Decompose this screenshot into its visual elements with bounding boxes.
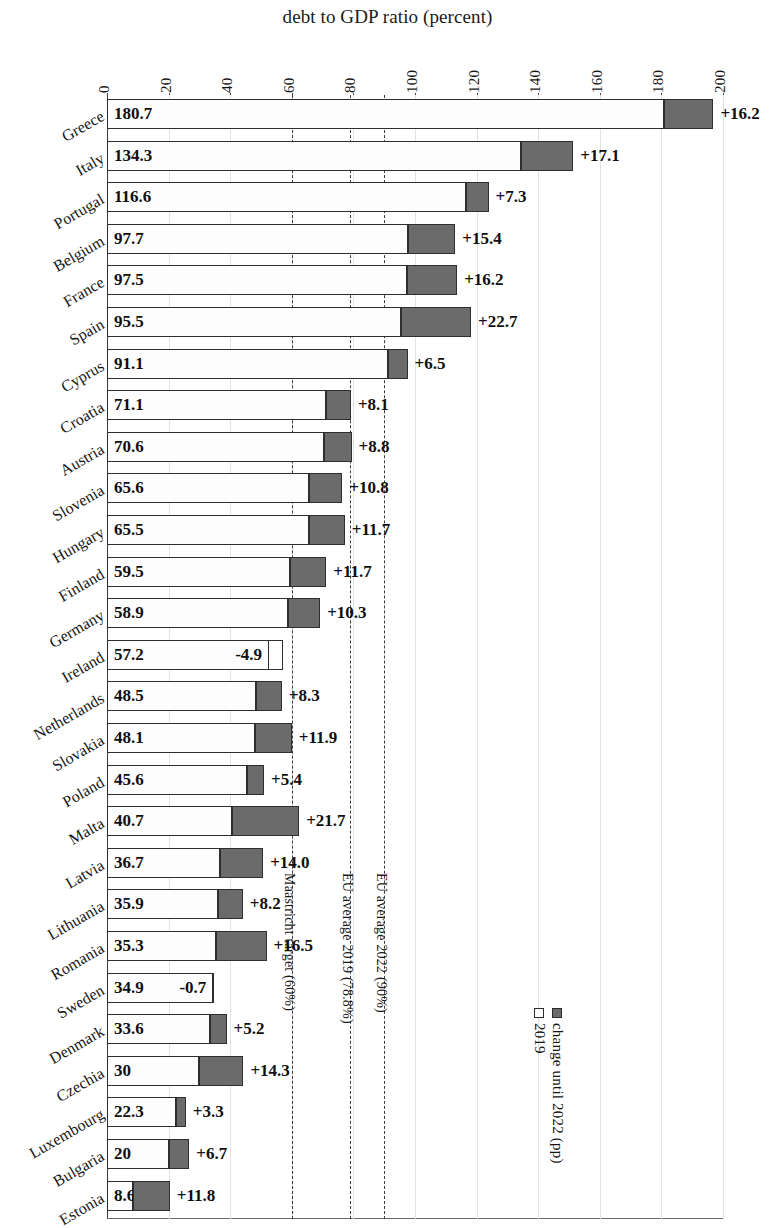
bar-row: 8.6+11.8 [107, 1181, 723, 1211]
change-value-label: +5.2 [234, 1014, 265, 1044]
bar-value-label: 35.9 [114, 889, 144, 919]
change-value-label: +5.4 [271, 765, 302, 795]
change-value-label: +21.7 [306, 806, 345, 836]
bar-segment-change [133, 1181, 169, 1211]
bar-segment-change [466, 182, 488, 212]
x-axis-tick-label: 0 [96, 85, 113, 93]
legend-swatch-hollow [534, 1008, 544, 1018]
bar-row: 134.3+17.1 [107, 141, 723, 171]
bar-segment-change [401, 307, 471, 337]
bar-row: 70.6+8.8 [107, 432, 723, 462]
bar-row: 116.6+7.3 [107, 182, 723, 212]
bar-value-label: 65.5 [114, 515, 144, 545]
bar-segment-2019 [107, 224, 408, 254]
bar-segment-change [268, 640, 283, 670]
bar-value-label: 70.6 [114, 432, 144, 462]
bar-row: 65.5+11.7 [107, 515, 723, 545]
bar-value-label: 20 [114, 1139, 131, 1169]
bar-segment-change [288, 598, 320, 628]
legend-label: 2019 [532, 1023, 548, 1054]
bar-segment-change [521, 141, 574, 171]
bar-row: 33.6+5.2 [107, 1014, 723, 1044]
change-value-label: +10.8 [349, 473, 388, 503]
bar-row: 36.7+14.0 [107, 848, 723, 878]
plot-area: Maastricht target (60%)EU average 2019 (… [107, 95, 723, 1219]
bar-row: 180.7+16.2 [107, 99, 723, 129]
change-value-label: +6.5 [415, 349, 446, 379]
change-value-label: +11.7 [333, 557, 372, 587]
change-value-label: +11.9 [299, 723, 338, 753]
bar-value-label: 48.5 [114, 681, 144, 711]
change-value-label: +8.1 [358, 390, 389, 420]
bar-row: 45.6+5.4 [107, 765, 723, 795]
bar-segment-change [290, 557, 326, 587]
bar-value-label: 134.3 [114, 141, 152, 171]
bar-value-label: 116.6 [114, 182, 151, 212]
change-value-label: +16.2 [720, 99, 759, 129]
change-value-label: +8.8 [359, 432, 390, 462]
x-axis-tick-label: 40 [219, 77, 236, 93]
chart-legend: 2019change until 2022 (pp) [548, 1008, 582, 1218]
x-axis-tick-label: 20 [158, 77, 175, 93]
bar-segment-change [388, 349, 408, 379]
bar-row: 34.9-0.7 [107, 973, 723, 1003]
bar-row: 97.5+16.2 [107, 265, 723, 295]
bar-segment-change [407, 265, 457, 295]
change-value-label: +14.3 [250, 1056, 289, 1086]
bar-value-label: 35.3 [114, 931, 144, 961]
x-axis-tick-label: 120 [466, 70, 483, 93]
x-axis: 020406080100120140160180200 [0, 40, 775, 95]
x-axis-tick-label: 160 [589, 70, 606, 93]
change-value-label: +16.5 [274, 931, 313, 961]
bar-value-label: 33.6 [114, 1014, 144, 1044]
legend-swatch-filled [552, 1008, 562, 1018]
bar-segment-change [326, 390, 351, 420]
bar-value-label: 40.7 [114, 806, 144, 836]
bar-segment-change [176, 1097, 186, 1127]
x-axis-tick-label: 140 [527, 70, 544, 93]
bar-segment-2019 [107, 307, 401, 337]
bar-value-label: 22.3 [114, 1097, 144, 1127]
change-value-label: +3.3 [193, 1097, 224, 1127]
bar-segment-2019 [107, 141, 521, 171]
change-value-label: +15.4 [462, 224, 501, 254]
x-axis-tick-label: 180 [650, 70, 667, 93]
bar-value-label: 48.1 [114, 723, 144, 753]
change-value-label: +10.3 [327, 598, 366, 628]
change-value-label: +11.7 [352, 515, 391, 545]
bar-value-label: 65.6 [114, 473, 144, 503]
change-value-label: +7.3 [496, 182, 527, 212]
change-value-label: +11.8 [177, 1181, 216, 1211]
bar-segment-change [210, 1014, 226, 1044]
bar-segment-change [216, 931, 267, 961]
bar-value-label: 97.5 [114, 265, 144, 295]
change-value-label: +8.2 [250, 889, 281, 919]
change-value-label: +17.1 [580, 141, 619, 171]
bar-row: 20+6.7 [107, 1139, 723, 1169]
bar-value-label: 180.7 [114, 99, 152, 129]
bar-row: 35.9+8.2 [107, 889, 723, 919]
bar-segment-change [256, 681, 282, 711]
bar-segment-change [324, 432, 351, 462]
bar-value-label: 59.5 [114, 557, 144, 587]
bar-value-label: 71.1 [114, 390, 144, 420]
chart-root: debt to GDP ratio (percent) 020406080100… [0, 0, 775, 1228]
legend-label: change until 2022 (pp) [550, 1023, 566, 1164]
bar-row: 48.5+8.3 [107, 681, 723, 711]
x-axis-tick-label: 100 [404, 70, 421, 93]
bar-segment-change [309, 515, 345, 545]
change-value-label: +14.0 [270, 848, 309, 878]
change-value-label: +16.2 [464, 265, 503, 295]
bar-segment-2019 [107, 182, 466, 212]
bar-value-label: 58.9 [114, 598, 144, 628]
change-value-label: -0.7 [107, 973, 206, 1003]
bar-segment-change [199, 1056, 243, 1086]
bar-value-label: 97.7 [114, 224, 144, 254]
bar-value-label: 45.6 [114, 765, 144, 795]
bar-segment-change [220, 848, 263, 878]
bar-row: 65.6+10.8 [107, 473, 723, 503]
bar-row: 57.2-4.9 [107, 640, 723, 670]
change-value-label: +22.7 [478, 307, 517, 337]
bar-value-label: 91.1 [114, 349, 144, 379]
bar-segment-change [408, 224, 455, 254]
